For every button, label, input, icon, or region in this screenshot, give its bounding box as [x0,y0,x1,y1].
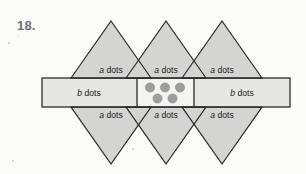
bar-left-unit: dots [84,88,100,98]
bottom-triangle-3-label: a dots [210,110,233,120]
dot-2 [160,83,169,92]
worksheet-page: 18. [0,0,306,174]
scan-speck-1 [8,42,10,44]
top-triangle-3-label: a dots [210,65,233,75]
bottom-triangle-2-unit: dots [161,110,177,120]
bottom-triangle-1-unit: dots [106,110,122,120]
top-triangle-2-unit: dots [161,65,177,75]
top-triangle-1-label: a dots [99,65,122,75]
bar-right-unit: dots [237,88,253,98]
bottom-triangle-labels: a dots a dots a dots [99,110,233,120]
scan-speck-3 [132,148,134,150]
dot-1 [145,83,154,92]
bar-right-cell-label: b dots [230,88,253,98]
bottom-triangle-3-unit: dots [217,110,233,120]
dot-3 [175,83,184,92]
top-triangle-1-unit: dots [106,65,122,75]
top-triangle-2-label: a dots [154,65,177,75]
top-triangle-3-unit: dots [217,65,233,75]
bar-center-cell [137,78,194,107]
bottom-triangle-1-label: a dots [99,110,122,120]
scan-speck-4 [18,36,19,37]
dot-4 [153,94,162,103]
bottom-triangle-2-label: a dots [154,110,177,120]
scan-speck-2 [12,160,14,162]
figure-diagram: a dots a dots a dots b dots b dots a dot… [0,0,306,174]
top-triangle-labels: a dots a dots a dots [99,65,233,75]
bar-left-cell-label: b dots [77,88,100,98]
dot-5 [168,94,177,103]
